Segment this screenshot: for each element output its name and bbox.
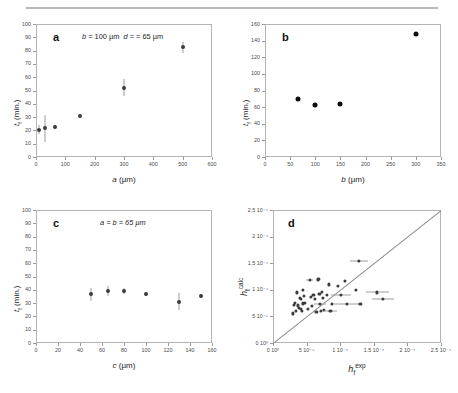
panel-d-xtick [340,343,341,346]
panel-b-data-point [295,96,300,101]
panel-c-xtick [168,343,169,346]
panel-b-ytick-label: 140 [225,37,260,43]
panel-a-ytick [33,130,36,131]
panel-a-ytick [33,117,36,118]
panel-a-xtick [36,157,37,160]
panel-a-annotation: b = 100 µm d = = 65 µm [82,32,163,41]
panel-c-data-point [144,292,148,296]
panel-c-ytick-label: 70 [0,246,31,252]
panel-a-ytick [33,24,36,25]
panel-d-xtick-label: 0 10⁰ [255,347,291,353]
panel-b-ytick [262,140,265,141]
panel-a-ylabel-sym: t [12,124,21,126]
panel-a-ytick-label: 70 [0,60,31,66]
panel-a-ytick [33,51,36,52]
panel-d-ytick [270,316,273,317]
panel-c-ytick-label: 10 [0,326,31,332]
panel-c-ytick [33,237,36,238]
panel-c-ytick-label: 90 [0,220,31,226]
panel-a-xtick [95,157,96,160]
panel-c-ytick-label: 100 [0,207,31,213]
panel-b-xtick [340,157,341,160]
panel-a-data-point [122,86,126,90]
panel-c-ylabel-sym: t [12,310,21,312]
panel-c-xtick-label: 160 [194,347,230,353]
panel-d-xtick-label: 5 10⁻⁵ [289,347,325,353]
panel-c-ytick-label: 50 [0,273,31,279]
panel-a-ytick-label: 30 [0,114,31,120]
panel-a-annot-b-val: = 100 µm [86,32,119,41]
panel-a-ytick-label: 50 [0,87,31,93]
panel-a-ytick [33,144,36,145]
panel-a-ytick [33,91,36,92]
panel-c-ytick [33,277,36,278]
panel-c-data-point [122,289,126,293]
panel-c-data-point [199,294,203,298]
panel-d-ytick-label: 1.5 10⁻⁴ [233,260,268,266]
panel-b-xtick [265,157,266,160]
panel-a-ylabel-sub: f [17,122,23,124]
panel-d-ytick [270,210,273,211]
panel-c: c a = b = 65 µm tf (min.) c (µm) 0102030… [0,204,229,384]
panel-a-ytick-label: 40 [0,100,31,106]
panel-a-ytick-label: 10 [0,140,31,146]
panel-d-ytick-label: 5 10⁻⁵ [233,313,268,319]
panel-a-ytick [33,64,36,65]
panel-b-xtick [315,157,316,160]
panel-b-ytick-label: 120 [225,54,260,60]
panel-c-data-point [89,292,93,296]
panel-c-ytick [33,330,36,331]
panel-a-data-point [181,45,185,49]
panel-a-xlabel: a (µm) [36,175,212,184]
panel-a-annot-d-val: = = 65 µm [128,32,163,41]
panel-a-xtick [183,157,184,160]
panel-a-xtick-label: 600 [194,161,230,167]
panel-c-xtick [146,343,147,346]
panel-b-letter: b [282,31,289,43]
panel-b-ytick [262,107,265,108]
panel-b-ytick-label: 160 [225,21,260,27]
panel-c-ylabel-sub: f [17,308,23,310]
panel-c-plot-area [36,210,212,343]
panel-b-ytick [262,41,265,42]
panel-d-xtick [374,343,375,346]
panel-c-ytick [33,263,36,264]
panel-c-xtick [190,343,191,346]
panel-b-xtick [366,157,367,160]
panel-d-xtick-label: 1.5 10⁻⁴ [356,347,392,353]
panel-d-ytick [270,263,273,264]
panel-d-ytick-label: 2 10⁻⁴ [233,233,268,239]
panel-c-ytick-label: 20 [0,313,31,319]
panel-b-ytick-label: 0 [225,154,260,160]
panel-d-ytick [270,237,273,238]
panel-a-ytick-label: 0 [0,154,31,160]
panel-b-ytick-label: 100 [225,70,260,76]
panel-d-xlabel: hfexp [273,362,441,376]
panel-c-ytick [33,316,36,317]
panel-a-xtick [212,157,213,160]
panel-d-xlabel-sup: exp [355,362,365,369]
figure-canvas: a b = 100 µm d = = 65 µm tf (min.) a (µm… [0,0,458,393]
panel-c-xtick [102,343,103,346]
panel-b-ytick [262,24,265,25]
panel-b-data-point [338,101,343,106]
panel-c-ytick [33,250,36,251]
panel-d-ytick-label: 0 10⁰ [233,340,268,346]
panel-a-ytick [33,77,36,78]
panel-c-annotation: a = b = 65 µm [100,218,146,227]
panel-a-ytick-label: 20 [0,127,31,133]
panel-c-data-point [106,289,110,293]
panel-a-letter: a [53,31,59,43]
panel-b-ytick [262,74,265,75]
panel-c-xtick [36,343,37,346]
panel-a-data-point [53,125,57,129]
panel-c-ytick-label: 80 [0,233,31,239]
panel-c-xtick [80,343,81,346]
panel-a-ytick-label: 80 [0,47,31,53]
panel-a-data-point [43,126,47,130]
panel-a-ytick-label: 100 [0,21,31,27]
panel-b-xlabel: b (µm) [265,175,441,184]
panel-d-xtick-label: 1 10⁻⁴ [322,347,358,353]
panel-c-ytick-label: 40 [0,286,31,292]
panel-c-ytick [33,303,36,304]
